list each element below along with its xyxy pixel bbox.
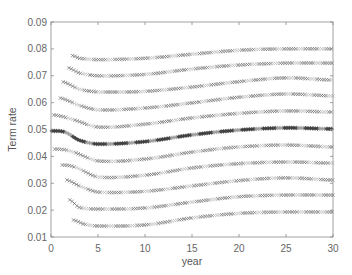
- y-tick-label: 0.01: [28, 232, 48, 243]
- series-curve-1: [71, 47, 333, 61]
- series-curve-6: [50, 126, 334, 147]
- y-axis-label: Term rate: [6, 107, 18, 152]
- x-tick-label: 30: [327, 243, 339, 254]
- y-tick-label: 0.03: [28, 178, 48, 189]
- y-tick-label: 0.06: [28, 97, 48, 108]
- y-tick-label: 0.09: [28, 17, 48, 28]
- series-layer: [50, 47, 335, 228]
- x-tick-label: 15: [186, 243, 198, 254]
- y-tick-label: 0.07: [28, 70, 48, 81]
- y-tick-label: 0.08: [28, 43, 48, 54]
- x-tick-label: 5: [95, 243, 101, 254]
- x-tick-label: 0: [48, 243, 54, 254]
- y-tick-label: 0.04: [28, 151, 48, 162]
- x-axis-label: year: [182, 255, 203, 267]
- x-tick-label: 25: [280, 243, 292, 254]
- y-tick-label: 0.05: [28, 124, 48, 135]
- series-curve-10: [68, 193, 335, 211]
- series-curve-2: [67, 61, 334, 77]
- y-tick-label: 0.02: [28, 205, 48, 216]
- x-tick-label: 10: [139, 243, 151, 254]
- series-curve-3: [62, 76, 333, 94]
- series-curve-5: [52, 109, 333, 129]
- series-curve-11: [72, 210, 334, 228]
- x-axis: 051015202530: [48, 22, 339, 254]
- x-tick-label: 20: [233, 243, 245, 254]
- series-curve-4: [59, 92, 335, 111]
- term-rate-chart: 051015202530 0.010.020.030.040.050.060.0…: [0, 0, 352, 275]
